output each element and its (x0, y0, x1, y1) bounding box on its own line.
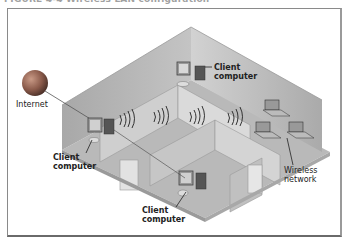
client-computer-label: Client computer (53, 153, 96, 171)
label-line: Wireless (284, 166, 317, 175)
label-line: computer (214, 72, 257, 81)
wireless-network-label: Wireless network (284, 166, 317, 184)
client-computer-label: Client computer (214, 63, 257, 81)
client-computer-label: Client computer (142, 206, 185, 224)
label-line: Client (53, 153, 96, 162)
label-line: network (284, 175, 317, 184)
label-line: computer (142, 215, 185, 224)
internet-label: Internet (16, 100, 48, 109)
label-line: computer (53, 162, 96, 171)
label-line: Client (214, 63, 257, 72)
label-line: Client (142, 206, 185, 215)
